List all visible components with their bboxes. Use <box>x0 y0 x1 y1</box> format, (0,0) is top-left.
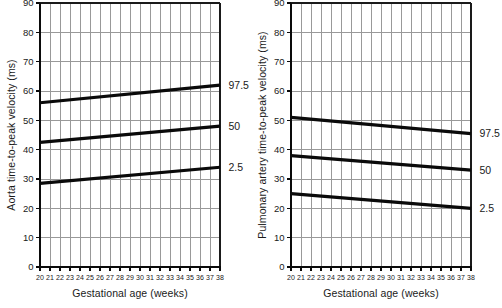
x-tick-label: 26 <box>347 274 355 281</box>
aorta-x-axis-title: Gestational age (weeks) <box>40 287 220 299</box>
x-tick-label: 34 <box>176 274 184 281</box>
x-tick-label: 22 <box>307 274 315 281</box>
x-tick-label: 33 <box>417 274 425 281</box>
percentile-label-50: 50 <box>480 164 492 176</box>
aorta-chart-plot: 0102030405060708090202122232425262728293… <box>0 0 251 308</box>
x-tick-label: 30 <box>387 274 395 281</box>
x-tick-label: 34 <box>427 274 435 281</box>
y-tick-label: 80 <box>274 27 285 38</box>
x-tick-label: 21 <box>46 274 54 281</box>
x-tick-label: 37 <box>457 274 465 281</box>
x-tick-label: 22 <box>56 274 64 281</box>
y-tick-label: 0 <box>28 261 33 272</box>
x-tick-label: 20 <box>287 274 295 281</box>
y-tick-label: 50 <box>23 115 34 126</box>
percentile-label-50: 50 <box>229 120 241 132</box>
y-tick-label: 20 <box>274 203 285 214</box>
x-tick-label: 27 <box>357 274 365 281</box>
y-tick-label: 70 <box>23 56 34 67</box>
pulmonary-artery-y-axis-title: Pulmonary artery time-to-peak velocity (… <box>256 31 268 238</box>
y-tick-label: 40 <box>274 144 285 155</box>
y-tick-label: 40 <box>23 144 34 155</box>
x-tick-label: 24 <box>327 274 335 281</box>
y-tick-label: 10 <box>23 232 34 243</box>
x-tick-label: 31 <box>397 274 405 281</box>
x-tick-label: 32 <box>156 274 164 281</box>
y-tick-label: 10 <box>274 232 285 243</box>
percentile-label-2.5: 2.5 <box>229 161 244 173</box>
x-tick-label: 28 <box>367 274 375 281</box>
x-tick-label: 31 <box>146 274 154 281</box>
x-tick-label: 36 <box>196 274 204 281</box>
pulmonary-artery-chart-plot: 0102030405060708090202122232425262728293… <box>251 0 502 308</box>
y-tick-label: 80 <box>23 27 34 38</box>
y-tick-label: 60 <box>274 85 285 96</box>
x-tick-label: 27 <box>106 274 114 281</box>
x-tick-label: 30 <box>136 274 144 281</box>
x-tick-label: 23 <box>66 274 74 281</box>
y-tick-label: 20 <box>23 203 34 214</box>
x-tick-label: 35 <box>186 274 194 281</box>
x-tick-label: 32 <box>407 274 415 281</box>
x-tick-label: 36 <box>447 274 455 281</box>
aorta-y-axis-title: Aorta time-to-peak velocity (ms) <box>5 59 17 210</box>
x-tick-label: 25 <box>337 274 345 281</box>
x-tick-label: 25 <box>86 274 94 281</box>
x-tick-label: 35 <box>437 274 445 281</box>
percentile-label-97.5: 97.5 <box>480 127 501 139</box>
y-tick-label: 50 <box>274 115 285 126</box>
pulmonary-artery-chart-panel: 0102030405060708090202122232425262728293… <box>251 0 502 308</box>
x-tick-label: 20 <box>36 274 44 281</box>
aorta-chart-panel: 0102030405060708090202122232425262728293… <box>0 0 251 308</box>
x-tick-label: 37 <box>206 274 214 281</box>
x-tick-label: 38 <box>467 274 475 281</box>
percentile-charts-figure: 0102030405060708090202122232425262728293… <box>0 0 502 308</box>
y-tick-label: 90 <box>23 0 34 8</box>
x-tick-label: 38 <box>216 274 224 281</box>
x-tick-label: 26 <box>96 274 104 281</box>
pulmonary-artery-x-axis-title: Gestational age (weeks) <box>291 287 471 299</box>
x-tick-label: 28 <box>116 274 124 281</box>
percentile-label-97.5: 97.5 <box>229 79 250 91</box>
x-tick-label: 21 <box>297 274 305 281</box>
y-tick-label: 70 <box>274 56 285 67</box>
x-tick-label: 29 <box>126 274 134 281</box>
y-tick-label: 0 <box>279 261 284 272</box>
y-tick-label: 90 <box>274 0 285 8</box>
x-tick-label: 23 <box>317 274 325 281</box>
x-tick-label: 24 <box>76 274 84 281</box>
y-tick-label: 60 <box>23 85 34 96</box>
x-tick-label: 29 <box>377 274 385 281</box>
y-tick-label: 30 <box>23 173 34 184</box>
y-tick-label: 30 <box>274 173 285 184</box>
x-tick-label: 33 <box>166 274 174 281</box>
percentile-label-2.5: 2.5 <box>480 202 495 214</box>
